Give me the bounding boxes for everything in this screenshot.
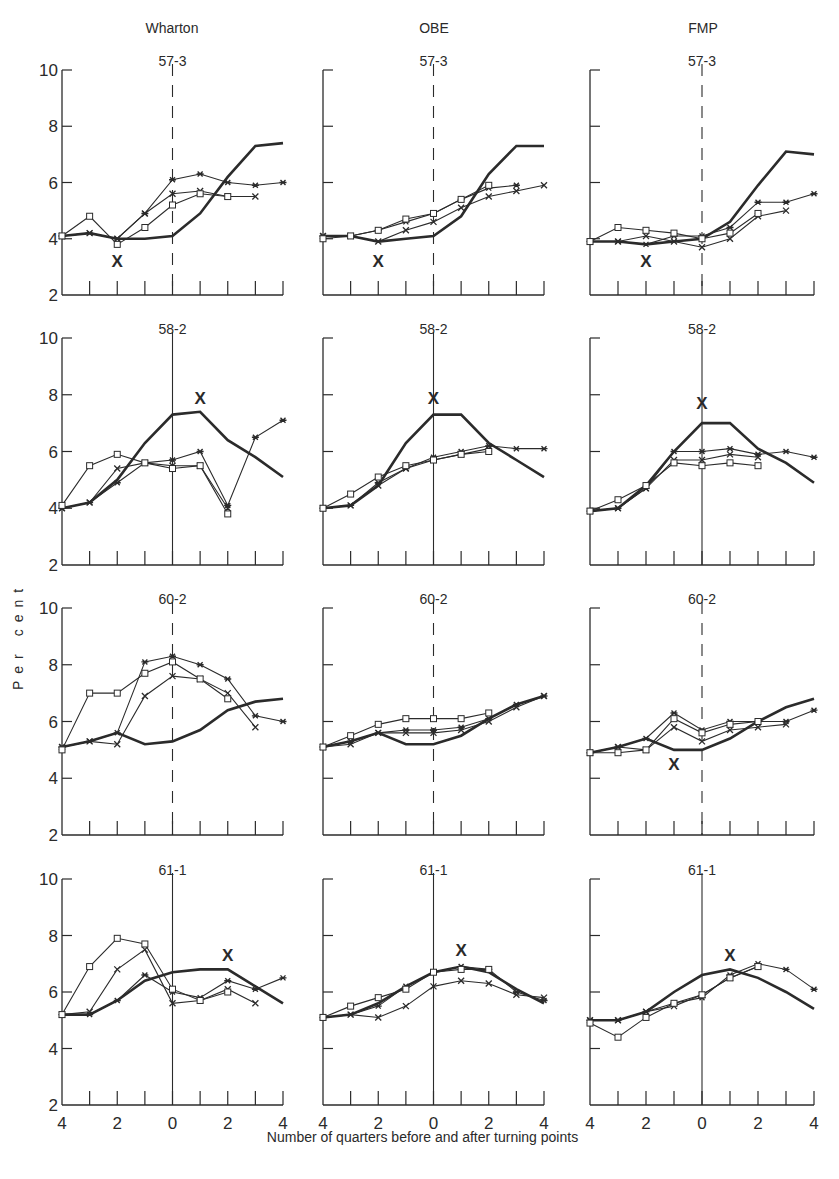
svg-text:58-2: 58-2 xyxy=(688,321,716,337)
panel-fmp-61-1: 61-1X42024 xyxy=(585,862,818,1133)
svg-text:4: 4 xyxy=(49,499,58,518)
panel-wharton-57-3: 46810257-3X xyxy=(39,53,286,305)
svg-text:X: X xyxy=(222,946,234,965)
svg-text:8: 8 xyxy=(49,386,58,405)
svg-text:X: X xyxy=(696,394,708,413)
svg-text:4: 4 xyxy=(49,230,58,249)
panel-wharton-58-2: 46810258-2X xyxy=(39,321,286,575)
panel-obe-60-2: 60-2 xyxy=(320,591,548,835)
svg-text:X: X xyxy=(194,389,206,408)
svg-text:2: 2 xyxy=(49,1096,58,1115)
svg-text:8: 8 xyxy=(49,927,58,946)
panel-obe-57-3: 57-3X xyxy=(320,53,548,295)
svg-text:2: 2 xyxy=(49,286,58,305)
svg-text:X: X xyxy=(668,755,680,774)
svg-text:X: X xyxy=(455,941,467,960)
svg-text:10: 10 xyxy=(39,329,58,348)
chart-figure: Wharton OBE FMP Per cent 46810257-3X57-3… xyxy=(0,0,839,1179)
svg-text:2: 2 xyxy=(49,826,58,845)
panel-obe-61-1: 61-1X42024 xyxy=(318,862,548,1133)
x-axis-caption: Number of quarters before and after turn… xyxy=(0,1129,839,1145)
svg-text:58-2: 58-2 xyxy=(158,321,186,337)
svg-text:10: 10 xyxy=(39,61,58,80)
svg-text:X: X xyxy=(373,252,385,271)
panel-wharton-61-1: 46810261-1X42024 xyxy=(39,862,288,1133)
svg-text:4: 4 xyxy=(49,1040,58,1059)
panel-fmp-60-2: 60-2X xyxy=(587,591,818,835)
svg-text:8: 8 xyxy=(49,117,58,136)
panel-obe-58-2: 58-2X xyxy=(320,321,548,565)
svg-text:X: X xyxy=(724,946,736,965)
panel-wharton-60-2: 46810260-2 xyxy=(39,591,286,845)
svg-text:57-3: 57-3 xyxy=(158,53,186,69)
svg-text:6: 6 xyxy=(49,713,58,732)
svg-text:60-2: 60-2 xyxy=(158,591,186,607)
svg-text:60-2: 60-2 xyxy=(419,591,447,607)
svg-text:58-2: 58-2 xyxy=(419,321,447,337)
svg-text:X: X xyxy=(112,252,124,271)
svg-text:10: 10 xyxy=(39,870,58,889)
svg-text:60-2: 60-2 xyxy=(688,591,716,607)
svg-text:57-3: 57-3 xyxy=(688,53,716,69)
svg-text:57-3: 57-3 xyxy=(419,53,447,69)
svg-text:6: 6 xyxy=(49,174,58,193)
svg-text:10: 10 xyxy=(39,599,58,618)
svg-text:6: 6 xyxy=(49,443,58,462)
svg-text:4: 4 xyxy=(49,769,58,788)
svg-text:61-1: 61-1 xyxy=(688,862,716,878)
svg-text:61-1: 61-1 xyxy=(419,862,447,878)
svg-text:6: 6 xyxy=(49,983,58,1002)
svg-text:X: X xyxy=(640,252,652,271)
chart-panels: 46810257-3X57-3X57-3X46810258-2X58-2X58-… xyxy=(0,0,839,1179)
svg-text:X: X xyxy=(428,389,440,408)
panel-fmp-58-2: 58-2X xyxy=(587,321,818,565)
svg-text:2: 2 xyxy=(49,556,58,575)
svg-text:8: 8 xyxy=(49,656,58,675)
svg-text:61-1: 61-1 xyxy=(158,862,186,878)
panel-fmp-57-3: 57-3X xyxy=(587,53,818,295)
